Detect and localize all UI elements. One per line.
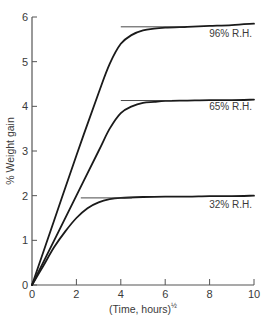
y-tick-label: 6 (22, 11, 28, 23)
y-tick-label: 3 (22, 145, 28, 157)
series-lines (32, 24, 254, 285)
y-tick-label: 2 (22, 190, 28, 202)
y-tick-label: 5 (22, 56, 28, 68)
curve-label: 32% R.H. (209, 199, 252, 210)
x-tick-label: 4 (118, 288, 124, 300)
curve-labels: 96% R.H.65% R.H.32% R.H. (209, 28, 252, 210)
x-tick-label: 0 (29, 288, 35, 300)
curve-96-r-h (32, 24, 254, 285)
x-axis-title: (Time, hours)½ (109, 302, 177, 315)
curve-label: 96% R.H. (209, 28, 252, 39)
y-tick-label: 1 (22, 234, 28, 246)
x-tick-label: 2 (73, 288, 79, 300)
axes: 01234560246810 (22, 11, 260, 300)
x-tick-label: 8 (207, 288, 213, 300)
x-tick-label: 6 (162, 288, 168, 300)
y-axis-title: % Weight gain (4, 117, 16, 185)
y-tick-label: 0 (22, 279, 28, 291)
y-tick-label: 4 (22, 100, 28, 112)
x-tick-label: 10 (248, 288, 260, 300)
curve-label: 65% R.H. (209, 101, 252, 112)
curve-65-r-h (32, 100, 254, 285)
weight-gain-chart: 01234560246810 96% R.H.65% R.H.32% R.H. … (0, 0, 266, 321)
